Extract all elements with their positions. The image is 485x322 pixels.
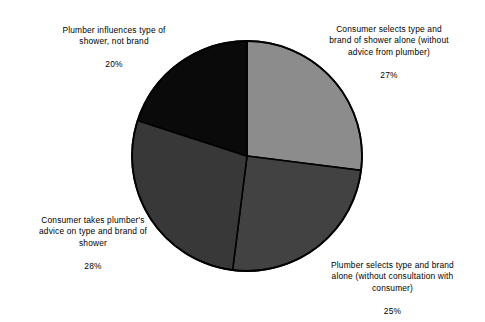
pie-label-text: Plumber influences type of shower, not b…	[24, 25, 204, 48]
pie-label-text: Consumer selects type and brand of showe…	[296, 24, 482, 59]
pie-label-consumer-alone: Consumer selects type and brand of showe…	[296, 12, 482, 93]
pie-label-text: Plumber selects type and brand alone (wi…	[300, 260, 485, 295]
pie-chart-figure: Plumber influences type of shower, not b…	[0, 0, 485, 322]
pie-label-value: 20%	[24, 59, 204, 71]
pie-label-value: 28%	[4, 261, 182, 273]
pie-label-plumber-influences: Plumber influences type of shower, not b…	[24, 13, 204, 83]
pie-label-plumber-alone: Plumber selects type and brand alone (wi…	[300, 248, 485, 322]
pie-label-consumer-takes-advice: Consumer takes plumber's advice on type …	[4, 203, 182, 284]
pie-label-value: 27%	[296, 70, 482, 82]
pie-label-value: 25%	[300, 306, 485, 318]
pie-label-text: Consumer takes plumber's advice on type …	[4, 215, 182, 250]
